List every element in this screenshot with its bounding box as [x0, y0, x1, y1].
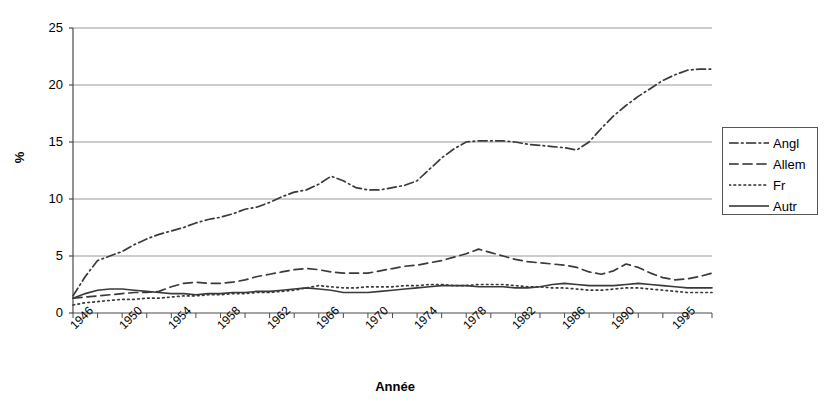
- legend-label: Autr: [773, 200, 797, 213]
- axis-ticks: [69, 28, 712, 318]
- series-line-fr: [73, 285, 712, 306]
- legend-label: Fr: [773, 179, 785, 192]
- legend-item-allem[interactable]: Allem: [723, 153, 819, 175]
- legend-item-autr[interactable]: Autr: [723, 195, 819, 217]
- legend-line-sample-fr: [729, 179, 769, 191]
- y-tick-label: 15: [33, 135, 63, 148]
- legend-label: Allem: [773, 158, 806, 171]
- y-tick-label: 10: [33, 192, 63, 205]
- legend-item-angl[interactable]: Angl: [723, 132, 819, 154]
- legend-label: Angl: [773, 137, 799, 150]
- legend-item-fr[interactable]: Fr: [723, 174, 819, 196]
- x-axis-title: Année: [0, 379, 790, 394]
- series-line-angl: [73, 69, 712, 296]
- y-tick-label: 25: [33, 21, 63, 34]
- data-series: [73, 69, 712, 305]
- line-chart: 0510152025 19461950195419581962196619701…: [0, 0, 832, 407]
- legend: AnglAllemFrAutr: [722, 127, 818, 215]
- gridlines: [73, 28, 712, 256]
- y-axis-title: %: [12, 152, 27, 164]
- legend-line-sample-allem: [729, 158, 769, 170]
- y-tick-label: 20: [33, 78, 63, 91]
- plot-canvas: [0, 0, 832, 407]
- y-tick-label: 5: [33, 249, 63, 262]
- series-line-autr: [73, 283, 712, 298]
- y-tick-label: 0: [33, 306, 63, 319]
- legend-line-sample-autr: [729, 200, 769, 212]
- legend-line-sample-angl: [729, 137, 769, 149]
